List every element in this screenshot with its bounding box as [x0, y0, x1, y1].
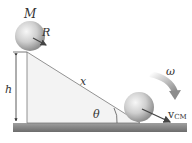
mass-label: M: [24, 8, 36, 20]
incline-length-label: x: [80, 76, 86, 87]
diagram-canvas: [0, 0, 192, 143]
omega-arrowhead: [169, 90, 181, 100]
radius-label: R: [42, 27, 50, 38]
sphere-bottom: [124, 92, 154, 122]
angle-label: θ: [93, 109, 100, 120]
velocity-cm-label: vCM: [168, 109, 187, 120]
velocity-subscript: CM: [174, 113, 187, 121]
height-label: h: [5, 84, 12, 95]
ground: [13, 123, 187, 132]
omega-label: ω: [166, 66, 175, 77]
sphere-top: [15, 21, 45, 51]
